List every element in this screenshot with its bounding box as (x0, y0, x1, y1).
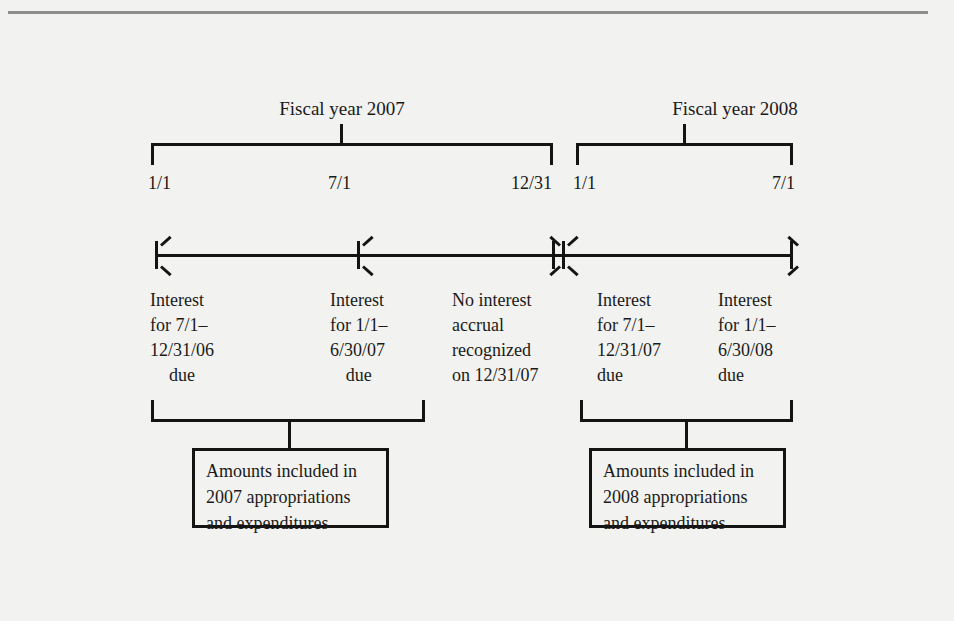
fy2007-bracket-stem (340, 124, 343, 144)
timeline-tick-fy2007-end (552, 241, 555, 269)
fy2008-bracket-left-tip (576, 143, 579, 165)
callout-2007-bracket-right-tip (422, 400, 425, 422)
timeline-tick-flare (160, 236, 172, 247)
callout-line: 2007 appropriations (206, 484, 386, 510)
note-column-no-interest-accrual: No interest accrual recognized on 12/31/… (452, 288, 539, 388)
note-line: due (330, 363, 388, 388)
timeline-tick-flare (362, 236, 374, 247)
date-label-fy2007-end: 12/31 (511, 173, 552, 194)
callout-box-2008: Amounts included in 2008 appropriations … (589, 448, 786, 528)
note-line: 6/30/07 (330, 338, 388, 363)
date-label-fy2008-end: 7/1 (772, 173, 795, 194)
note-line: for 7/1– (597, 313, 661, 338)
note-line: 12/31/07 (597, 338, 661, 363)
callout-2007-bracket-stem (288, 419, 291, 448)
fiscal-year-2007-title: Fiscal year 2007 (207, 98, 477, 120)
fy2008-bracket-right-tip (790, 143, 793, 165)
note-line: for 7/1– (150, 313, 214, 338)
timeline-tick-flare (160, 265, 172, 276)
note-column-interest-7-1-12-31-06: Interest for 7/1– 12/31/06 due (150, 288, 214, 388)
note-column-interest-7-1-12-31-07: Interest for 7/1– 12/31/07 due (597, 288, 661, 388)
timeline-tick-fy2007-mid (357, 241, 360, 269)
fy2007-bracket-left-tip (151, 143, 154, 165)
timeline-tick-fy2008-end (790, 241, 793, 269)
callout-box-2007: Amounts included in 2007 appropriations … (192, 448, 389, 528)
note-line: due (597, 363, 661, 388)
fiscal-year-2008-title: Fiscal year 2008 (600, 98, 870, 120)
callout-2008-bracket-left-tip (580, 400, 583, 422)
note-line: 6/30/08 (718, 338, 776, 363)
note-line: No interest (452, 288, 539, 313)
note-line: due (150, 363, 214, 388)
note-line: for 1/1– (718, 313, 776, 338)
callout-line: 2008 appropriations (603, 484, 783, 510)
date-label-fy2007-mid: 7/1 (328, 173, 351, 194)
fy2007-bracket-right-tip (550, 143, 553, 165)
timeline-axis (155, 254, 793, 257)
note-line: Interest (597, 288, 661, 313)
timeline-tick-flare (567, 265, 579, 276)
callout-line: Amounts included in (603, 458, 783, 484)
top-divider-rule (8, 11, 928, 14)
note-line: due (718, 363, 776, 388)
note-line: accrual (452, 313, 539, 338)
fy2008-bracket-stem (683, 124, 686, 144)
callout-2007-bracket-left-tip (151, 400, 154, 422)
note-column-interest-1-1-6-30-07: Interest for 1/1– 6/30/07 due (330, 288, 388, 388)
note-line: Interest (150, 288, 214, 313)
note-line: Interest (718, 288, 776, 313)
timeline-tick-flare (567, 236, 579, 247)
figure-canvas: Fiscal year 2007 Fiscal year 2008 1/1 7/… (0, 0, 954, 621)
fy2007-bracket-span (151, 143, 553, 146)
note-line: for 1/1– (330, 313, 388, 338)
timeline-tick-flare (362, 265, 374, 276)
timeline-tick-fy2008-start (562, 241, 565, 269)
callout-2008-bracket-right-tip (790, 400, 793, 422)
note-line: recognized (452, 338, 539, 363)
timeline-tick-fy2007-start (155, 241, 158, 269)
note-line: 12/31/06 (150, 338, 214, 363)
callout-line: Amounts included in (206, 458, 386, 484)
callout-line: and expenditures (206, 510, 386, 536)
note-line: Interest (330, 288, 388, 313)
callout-2008-bracket-stem (685, 419, 688, 448)
callout-line: and expenditures (603, 510, 783, 536)
date-label-fy2007-start: 1/1 (148, 173, 171, 194)
note-column-interest-1-1-6-30-08: Interest for 1/1– 6/30/08 due (718, 288, 776, 388)
date-label-fy2008-start: 1/1 (573, 173, 596, 194)
note-line: on 12/31/07 (452, 363, 539, 388)
